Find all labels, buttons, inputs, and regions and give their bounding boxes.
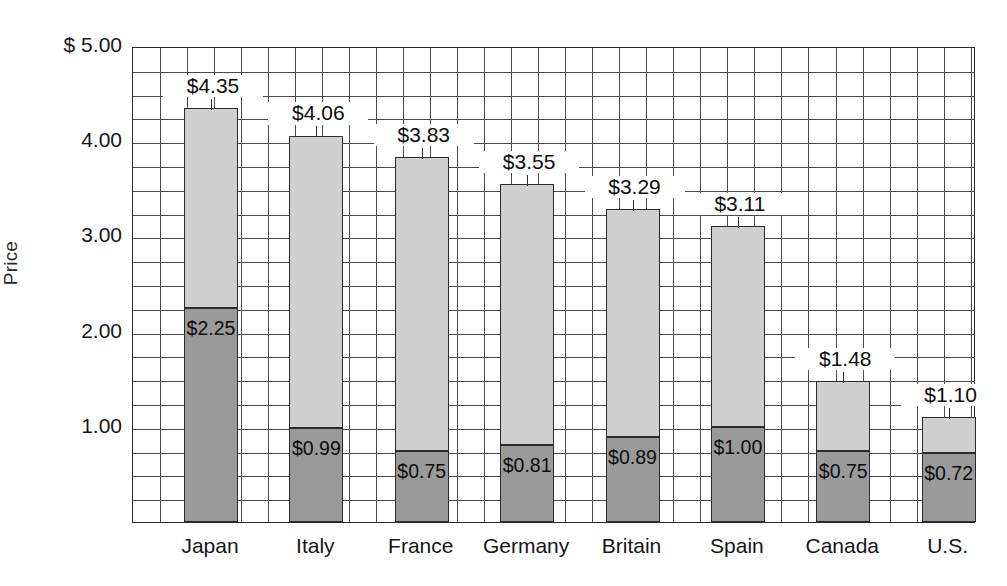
bar-us[interactable]: $0.72	[922, 417, 976, 522]
y-tick-label: 1.00	[12, 414, 122, 438]
bar-segment-lower: $0.81	[500, 445, 554, 522]
y-tick-label: 4.00	[12, 128, 122, 152]
bar-total-label: $1.10	[901, 384, 1001, 406]
bar-segment-lower: $0.75	[816, 451, 870, 522]
bar-total-label: $3.55	[479, 151, 579, 173]
bar-value-label-lower: $1.00	[712, 436, 764, 459]
bar-segment-lower: $0.89	[606, 437, 660, 522]
bar-value-label-lower: $0.75	[817, 460, 869, 483]
bar-total-label: $3.11	[690, 193, 790, 215]
plot-area: $2.25$4.35$0.99$4.06$0.75$3.83$0.81$3.55…	[132, 47, 975, 523]
total-label-leader-tick	[316, 126, 317, 137]
total-label-leader-tick	[633, 200, 634, 211]
x-label-us: U.S.	[883, 534, 1007, 558]
bar-segment-upper	[606, 209, 660, 437]
bar-france[interactable]: $0.75	[395, 157, 449, 522]
bar-segment-upper	[816, 381, 870, 451]
bar-canada[interactable]: $0.75	[816, 381, 870, 522]
y-tick-label: $ 5.00	[12, 33, 122, 57]
bar-segment-lower: $1.00	[711, 427, 765, 522]
bars-layer: $2.25$4.35$0.99$4.06$0.75$3.83$0.81$3.55…	[133, 48, 974, 522]
bar-total-label: $3.83	[374, 124, 474, 146]
bar-total-label: $4.06	[268, 102, 368, 124]
total-label-leader-tick	[843, 372, 844, 383]
bar-total-label: $4.35	[163, 75, 263, 97]
bar-italy[interactable]: $0.99	[289, 136, 343, 523]
total-label-leader-tick	[949, 408, 950, 419]
bar-segment-lower: $2.25	[184, 308, 238, 522]
bar-total-label: $1.48	[795, 348, 895, 370]
y-tick-label: 3.00	[12, 223, 122, 247]
bar-segment-upper	[711, 226, 765, 427]
total-label-leader-tick	[422, 148, 423, 159]
bar-segment-upper	[395, 157, 449, 450]
total-label-leader-tick	[527, 175, 528, 186]
bar-segment-upper	[289, 136, 343, 428]
bar-value-label-lower: $2.25	[185, 317, 237, 340]
bar-segment-lower: $0.75	[395, 451, 449, 522]
bar-value-label-lower: $0.81	[501, 454, 553, 477]
bar-segment-lower: $0.72	[922, 453, 976, 522]
y-tick-label: 2.00	[12, 319, 122, 343]
y-axis-tick-labels: $ 5.004.003.002.001.00	[6, 0, 122, 586]
bar-segment-upper	[500, 184, 554, 445]
bar-total-label: $3.29	[585, 176, 685, 198]
x-axis-category-labels: JapanItalyFranceGermanyBritainSpainCanad…	[132, 534, 975, 574]
bar-spain[interactable]: $1.00	[711, 226, 765, 522]
bar-britain[interactable]: $0.89	[606, 209, 660, 522]
bar-value-label-lower: $0.99	[290, 437, 342, 460]
total-label-leader-tick	[738, 217, 739, 228]
bar-japan[interactable]: $2.25	[184, 108, 238, 522]
bar-value-label-lower: $0.72	[923, 462, 975, 485]
bar-segment-upper	[922, 417, 976, 453]
bar-segment-lower: $0.99	[289, 428, 343, 522]
bar-value-label-lower: $0.89	[607, 446, 659, 469]
price-bar-chart: Price $ 5.004.003.002.001.00 $2.25$4.35$…	[0, 0, 1007, 586]
bar-value-label-lower: $0.75	[396, 460, 448, 483]
bar-segment-upper	[184, 108, 238, 308]
total-label-leader-tick	[211, 99, 212, 110]
bar-germany[interactable]: $0.81	[500, 184, 554, 522]
